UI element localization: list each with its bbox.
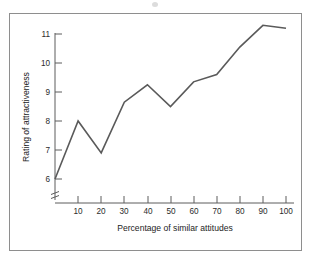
y-tick-label: 11 xyxy=(42,30,51,39)
x-tick-label: 20 xyxy=(96,207,106,216)
x-axis-title: Percentage of similar attitudes xyxy=(117,223,233,233)
y-tick-label: 8 xyxy=(45,117,50,126)
x-tick-label: 10 xyxy=(73,207,83,216)
line-chart: 11 10 9 8 7 6 10 xyxy=(10,14,301,250)
x-tick-label: 80 xyxy=(235,207,245,216)
y-tick-label: 6 xyxy=(45,175,50,184)
x-tick-label: 50 xyxy=(166,207,176,216)
y-tick-label: 10 xyxy=(41,59,51,68)
y-tick-label: 7 xyxy=(45,146,50,155)
x-tick-labels: 10 20 30 40 50 60 70 80 90 100 xyxy=(73,207,293,216)
y-tick-label: 9 xyxy=(45,88,50,97)
y-axis xyxy=(51,33,59,200)
data-series-line xyxy=(55,25,286,179)
plot-frame: 11 10 9 8 7 6 10 xyxy=(9,13,302,251)
x-tick-label: 30 xyxy=(119,207,129,216)
x-tick-label: 90 xyxy=(258,207,268,216)
x-tick-label: 70 xyxy=(212,207,222,216)
y-tick-labels: 11 10 9 8 7 6 xyxy=(41,30,51,184)
x-tick-marks xyxy=(78,196,286,203)
x-tick-label: 40 xyxy=(143,207,153,216)
x-tick-label: 60 xyxy=(189,207,199,216)
x-tick-label: 100 xyxy=(279,207,293,216)
page-speck-artifact xyxy=(152,2,158,7)
y-axis-title: Rating of attractiveness xyxy=(21,72,31,162)
y-tick-marks xyxy=(55,34,62,179)
figure-container: 11 10 9 8 7 6 10 xyxy=(0,0,313,265)
